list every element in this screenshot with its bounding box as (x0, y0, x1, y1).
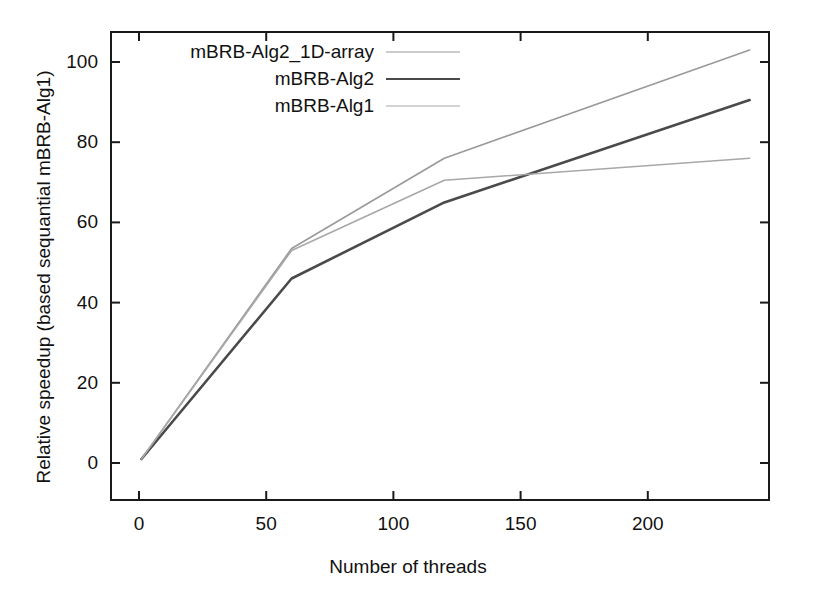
legend-entry: mBRB-Alg1 (160, 92, 460, 119)
chart-figure: 020406080100 050100150200 Number of thre… (0, 0, 816, 598)
legend-key-alg2 (386, 72, 460, 86)
legend-entry: mBRB-Alg2_1D-array (160, 38, 460, 65)
legend-label: mBRB-Alg2 (275, 68, 386, 90)
x-tick-label: 100 (378, 513, 410, 535)
data-line (142, 100, 750, 459)
legend-label: mBRB-Alg1 (275, 95, 386, 117)
x-axis-title: Number of threads (329, 556, 486, 578)
x-tick-label: 0 (134, 513, 145, 535)
x-tick-label: 50 (256, 513, 277, 535)
x-tick-label: 200 (632, 513, 664, 535)
legend-key-1d-array (386, 45, 460, 59)
legend-key-alg1 (386, 99, 460, 113)
y-axis-title: Relative speedup (based sequantial mBRB-… (33, 67, 55, 487)
legend-label: mBRB-Alg2_1D-array (190, 41, 386, 63)
legend: mBRB-Alg2_1D-array mBRB-Alg2 mBRB-Alg1 (160, 38, 460, 119)
x-tick-label: 150 (505, 513, 537, 535)
legend-entry: mBRB-Alg2 (160, 65, 460, 92)
